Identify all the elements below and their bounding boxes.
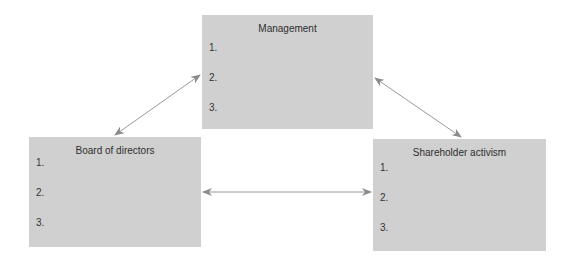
management-item-3: 3.: [209, 102, 217, 113]
shareholder-activism-box: Shareholder activism 1. 2. 3.: [373, 139, 546, 251]
board-item-3: 3.: [36, 217, 44, 228]
shareholder-item-3: 3.: [380, 222, 388, 233]
shareholder-title: Shareholder activism: [373, 147, 546, 158]
board-item-2: 2.: [36, 187, 44, 198]
board-of-directors-box: Board of directors 1. 2. 3.: [29, 137, 201, 247]
board-item-1: 1.: [36, 157, 44, 168]
management-title: Management: [202, 23, 373, 34]
shareholder-item-2: 2.: [380, 192, 388, 203]
board-title: Board of directors: [29, 145, 201, 156]
management-item-1: 1.: [209, 42, 217, 53]
shareholder-item-1: 1.: [380, 162, 388, 173]
arrow-management-shareholder: [375, 78, 461, 137]
arrow-board-management: [115, 75, 200, 135]
management-item-2: 2.: [209, 72, 217, 83]
management-box: Management 1. 2. 3.: [202, 15, 373, 129]
